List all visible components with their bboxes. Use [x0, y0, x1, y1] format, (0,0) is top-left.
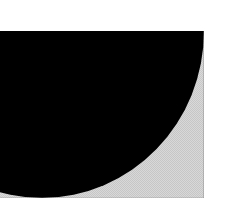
image-canvas — [0, 0, 229, 222]
halftone-panel — [0, 31, 204, 198]
quarter-disc-shape — [0, 31, 204, 198]
panel-right-edge-seam — [203, 31, 204, 198]
panel-bottom-edge-seam — [0, 197, 204, 198]
